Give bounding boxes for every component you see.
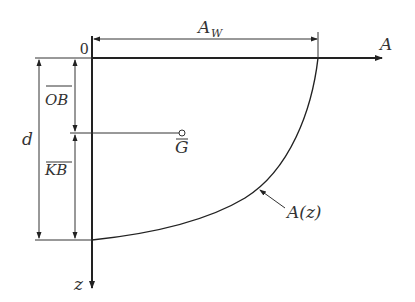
diagram-canvas: 0 A A W z d OB KB G A(z) bbox=[0, 0, 415, 302]
g-point-marker bbox=[179, 130, 185, 136]
origin-label: 0 bbox=[80, 39, 89, 58]
curve-leader-arrow bbox=[260, 190, 285, 208]
ob-label: OB bbox=[45, 91, 68, 109]
aw-subscript: W bbox=[211, 27, 224, 40]
d-label: d bbox=[22, 129, 33, 149]
a-axis-label: A bbox=[378, 34, 392, 54]
aw-label: A bbox=[196, 17, 210, 37]
curve-label: A(z) bbox=[285, 202, 322, 222]
g-label: G bbox=[175, 137, 189, 157]
area-curve bbox=[92, 58, 318, 240]
kb-label: KB bbox=[44, 161, 67, 179]
z-axis-label: z bbox=[73, 274, 84, 294]
diagram-svg: 0 A A W z d OB KB G A(z) bbox=[0, 0, 415, 302]
